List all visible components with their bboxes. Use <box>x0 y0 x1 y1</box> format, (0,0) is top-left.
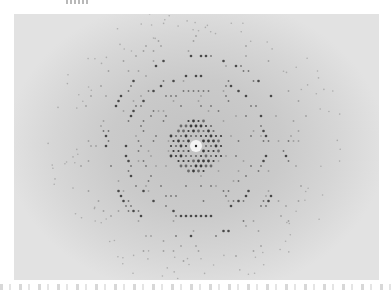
cropped-caption-fragment-bottom <box>0 284 391 290</box>
diffraction-image <box>14 14 379 280</box>
diffraction-pattern <box>14 14 379 280</box>
cropped-text-fragment-top <box>66 0 88 4</box>
